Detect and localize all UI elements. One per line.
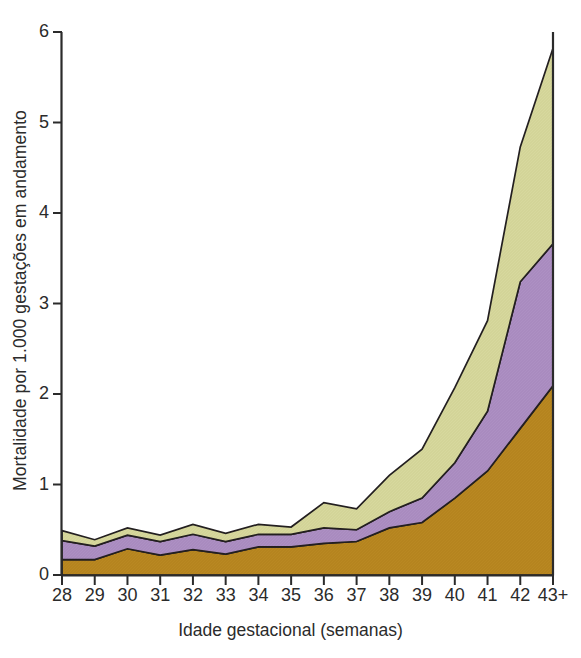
area-chart-plot [0, 0, 581, 658]
y-tick-label: 4 [23, 202, 49, 223]
x-tick-label: 41 [478, 585, 498, 606]
x-tick-label: 30 [117, 585, 137, 606]
x-axis-title-text: Idade gestacional (semanas) [178, 620, 403, 640]
x-tick-label: 31 [150, 585, 170, 606]
x-tick-label: 29 [85, 585, 105, 606]
y-tick-label: 2 [23, 383, 49, 404]
y-tick-label: 1 [23, 474, 49, 495]
y-tick-label: 6 [23, 21, 49, 42]
stacked-areas [62, 48, 553, 575]
y-tick-label: 5 [23, 112, 49, 133]
chart-figure: Mortalidade por 1.000 gestações em andam… [0, 0, 581, 658]
x-tick-label: 34 [248, 585, 268, 606]
x-tick-label: 37 [347, 585, 367, 606]
x-tick-label: 32 [183, 585, 203, 606]
x-tick-label: 40 [445, 585, 465, 606]
x-tick-label: 35 [281, 585, 301, 606]
x-tick-label: 43+ [538, 585, 569, 606]
x-tick-label: 28 [52, 585, 72, 606]
x-tick-label: 42 [510, 585, 530, 606]
x-tick-label: 39 [412, 585, 432, 606]
x-tick-label: 33 [216, 585, 236, 606]
y-tick-label: 0 [23, 564, 49, 585]
x-tick-label: 36 [314, 585, 334, 606]
x-axis-title: Idade gestacional (semanas) [0, 620, 581, 641]
y-tick-label: 3 [23, 293, 49, 314]
x-tick-label: 38 [379, 585, 399, 606]
